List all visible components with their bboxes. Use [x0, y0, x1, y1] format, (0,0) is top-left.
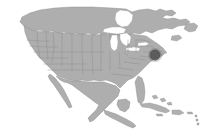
- primary-location-marker[interactable]: [148, 48, 162, 62]
- marker-dot-icon[interactable]: [150, 50, 160, 60]
- puerto-rico: [187, 112, 193, 114]
- north-america-locator-map[interactable]: [0, 0, 205, 140]
- jamaica: [156, 114, 163, 116]
- map-canvas[interactable]: [0, 0, 205, 140]
